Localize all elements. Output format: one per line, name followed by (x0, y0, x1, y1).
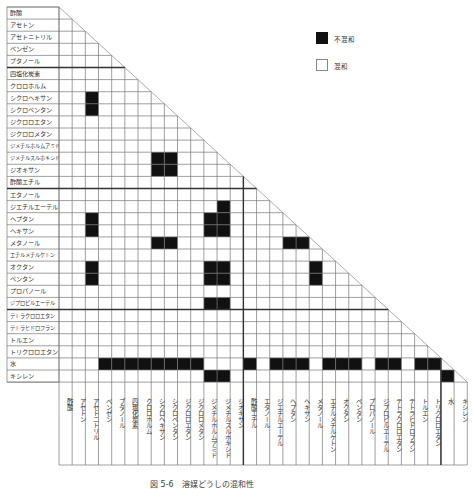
row-label: テトラクロロエタン (7, 310, 59, 322)
row-label: シクロペンタン (7, 104, 59, 116)
row-label: ジメチルスルホキシド (7, 152, 59, 164)
immiscible-cell (217, 213, 230, 225)
row-label: プロパノール (7, 285, 59, 297)
immiscible-cell (178, 358, 191, 370)
immiscible-cell (388, 358, 401, 370)
immiscible-cell (204, 273, 217, 285)
column-label: ジメチルホルムアミド (204, 395, 217, 458)
column-label: メタノール (309, 395, 322, 428)
immiscible-cell (217, 273, 230, 285)
row-label: 四塩化炭素 (7, 68, 59, 80)
row-label: キシレン (7, 370, 59, 382)
column-label: アセトン (72, 395, 85, 422)
legend-label-miscible: 混和 (334, 61, 348, 71)
immiscible-cell (296, 237, 309, 249)
row-label: ペンタン (7, 273, 59, 285)
row-label: アセトン (7, 19, 59, 31)
row-label: シクロヘキサン (7, 92, 59, 104)
immiscible-cell (164, 152, 177, 164)
immiscible-cell (85, 104, 98, 116)
immiscible-cell (349, 358, 362, 370)
immiscible-cell (204, 370, 217, 382)
column-label: ブタノール (112, 395, 125, 428)
column-label: ヘキサン (296, 395, 309, 422)
column-label: ベンゼン (99, 395, 112, 422)
immiscible-cell (85, 92, 98, 104)
immiscible-cell (204, 261, 217, 273)
row-label: ジメチルホルムアミド (7, 140, 59, 152)
immiscible-cell (85, 213, 98, 225)
immiscible-cell (151, 237, 164, 249)
immiscible-cell (112, 358, 125, 370)
immiscible-cell (441, 370, 454, 382)
column-label: テトラヒドロフラン (401, 395, 414, 452)
column-label: ジオキサン (230, 395, 243, 428)
immiscible-cell (217, 225, 230, 237)
column-label: オクタン (336, 395, 349, 422)
row-label: エタノール (7, 189, 59, 201)
row-label: クロロホルム (7, 80, 59, 92)
immiscible-cell (309, 261, 322, 273)
column-label: ジクロロメタン (191, 395, 204, 440)
row-label: ベンゼン (7, 43, 59, 55)
row-label: 酢酸エチル (7, 176, 59, 188)
immiscible-cell (296, 358, 309, 370)
immiscible-cell (151, 164, 164, 176)
column-label: クロロホルム (138, 395, 151, 434)
row-label: ヘキサン (7, 225, 59, 237)
column-label: ペンタン (349, 395, 362, 422)
column-label: ジエチルエーテル (270, 395, 283, 446)
column-label: シクロペンタン (164, 395, 177, 440)
immiscible-cell (85, 225, 98, 237)
row-label: メタノール (7, 237, 59, 249)
immiscible-cell (164, 164, 177, 176)
legend-label-immiscible: 不混和 (334, 34, 355, 44)
immiscible-cell (164, 358, 177, 370)
immiscible-cell (217, 297, 230, 309)
immiscible-cell (204, 213, 217, 225)
immiscible-cell (138, 358, 151, 370)
column-label: ジメチルスルホキシド (217, 395, 230, 458)
column-label: ヘプタン (283, 395, 296, 422)
legend-swatch-miscible (316, 59, 328, 71)
column-label: 四塩化炭素 (125, 395, 138, 428)
row-label: オクタン (7, 261, 59, 273)
row-label: ジクロロメタン (7, 128, 59, 140)
immiscible-cell (85, 273, 98, 285)
immiscible-cell (164, 237, 177, 249)
row-label: 酢酸 (7, 7, 59, 19)
column-label: ジプロピルエーテル (375, 395, 388, 452)
immiscible-cell (375, 358, 388, 370)
immiscible-cell (151, 358, 164, 370)
immiscible-cell (217, 370, 230, 382)
column-label: キシレン (454, 395, 467, 422)
column-label: プロパノール (362, 395, 375, 434)
column-label: エタノール (257, 395, 270, 428)
immiscible-cell (243, 358, 256, 370)
column-label: 水 (441, 395, 454, 404)
column-label: エチルメチルケトン (322, 395, 335, 452)
column-label: トルエン (415, 395, 428, 422)
column-label: ジクロロエタン (178, 395, 191, 440)
column-label: アセトニトリル (85, 395, 98, 440)
figure-caption: 図 5-6 溶媒どうしの混和性 (150, 478, 254, 489)
row-label: ブタノール (7, 55, 59, 67)
row-label: ヘプタン (7, 213, 59, 225)
row-label: ジエチルエーテル (7, 201, 59, 213)
immiscible-cell (99, 358, 112, 370)
column-label: シクロヘキサン (151, 395, 164, 440)
row-label: ジプロピルエーテル (7, 297, 59, 309)
row-label: アセトニトリル (7, 31, 59, 43)
immiscible-cell (270, 358, 283, 370)
row-label: トルエン (7, 334, 59, 346)
column-label: 酢酸 (59, 395, 72, 410)
immiscible-cell (191, 358, 204, 370)
row-label: トリクロロエタン (7, 346, 59, 358)
immiscible-cell (151, 152, 164, 164)
immiscible-cell (283, 358, 296, 370)
row-label: ジオキサン (7, 164, 59, 176)
row-label: ジクロロエタン (7, 116, 59, 128)
row-label: エチルメチルケトン (7, 249, 59, 261)
immiscible-cell (336, 358, 349, 370)
